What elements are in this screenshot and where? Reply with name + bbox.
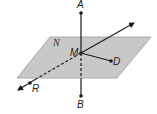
- label-m: M: [70, 47, 79, 58]
- geometry-diagram: A M B D R N: [0, 0, 157, 114]
- point-a: [79, 11, 83, 15]
- label-b: B: [77, 99, 84, 110]
- point-m: [79, 51, 83, 55]
- point-b: [79, 94, 83, 98]
- label-a: A: [76, 0, 84, 10]
- label-d: D: [113, 56, 120, 67]
- label-r: R: [32, 83, 39, 94]
- plane-n: [17, 37, 151, 78]
- diagram-canvas: A M B D R N: [0, 0, 157, 114]
- label-plane-n: N: [52, 37, 61, 48]
